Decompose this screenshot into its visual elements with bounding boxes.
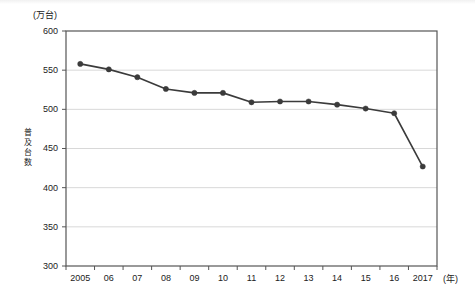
y-axis-ticks-group: 300350400450500550600	[43, 26, 66, 271]
x-axis-tick-label: 2017	[413, 273, 433, 283]
x-axis-tick-label: 09	[189, 273, 199, 283]
y-axis-tick-label: 600	[43, 26, 58, 36]
data-point-marker	[249, 100, 254, 105]
data-point-marker	[363, 106, 368, 111]
x-axis-tick-label: 16	[389, 273, 399, 283]
y-axis-tick-label: 550	[43, 65, 58, 75]
data-point-marker	[420, 164, 425, 169]
data-point-marker	[277, 99, 282, 104]
x-axis-tick-label: 2005	[70, 273, 90, 283]
data-point-marker	[220, 90, 225, 95]
x-axis-tick-label: 07	[132, 273, 142, 283]
x-axis-tick-label: 13	[304, 273, 314, 283]
gridlines-group	[66, 70, 437, 227]
data-point-marker	[106, 67, 111, 72]
y-axis-tick-label: 350	[43, 222, 58, 232]
data-point-marker	[392, 111, 397, 116]
y-axis-tick-label: 300	[43, 261, 58, 271]
x-axis-tick-label: 06	[104, 273, 114, 283]
data-point-markers-group	[78, 61, 426, 169]
x-axis-ticks-group: 200506070809101112131415162017	[66, 266, 437, 283]
data-point-marker	[335, 102, 340, 107]
x-axis-tick-label: 10	[218, 273, 228, 283]
data-point-marker	[78, 61, 83, 66]
x-axis-tick-label: 08	[161, 273, 171, 283]
chart-plot-area: 300350400450500550600 200506070809101112…	[0, 0, 475, 299]
data-point-marker	[135, 75, 140, 80]
data-point-marker	[192, 90, 197, 95]
data-point-marker	[306, 99, 311, 104]
data-point-marker	[163, 86, 168, 91]
y-axis-tick-label: 500	[43, 104, 58, 114]
x-axis-tick-label: 15	[361, 273, 371, 283]
x-axis-tick-label: 12	[275, 273, 285, 283]
y-axis-tick-label: 450	[43, 143, 58, 153]
x-axis-tick-label: 14	[332, 273, 342, 283]
y-axis-tick-label: 400	[43, 183, 58, 193]
data-series-line	[80, 64, 422, 167]
chart-figure: (万台) 普 及 台 数 (年) 300350400450500550600 2…	[0, 0, 475, 299]
x-axis-tick-label: 11	[247, 273, 256, 283]
